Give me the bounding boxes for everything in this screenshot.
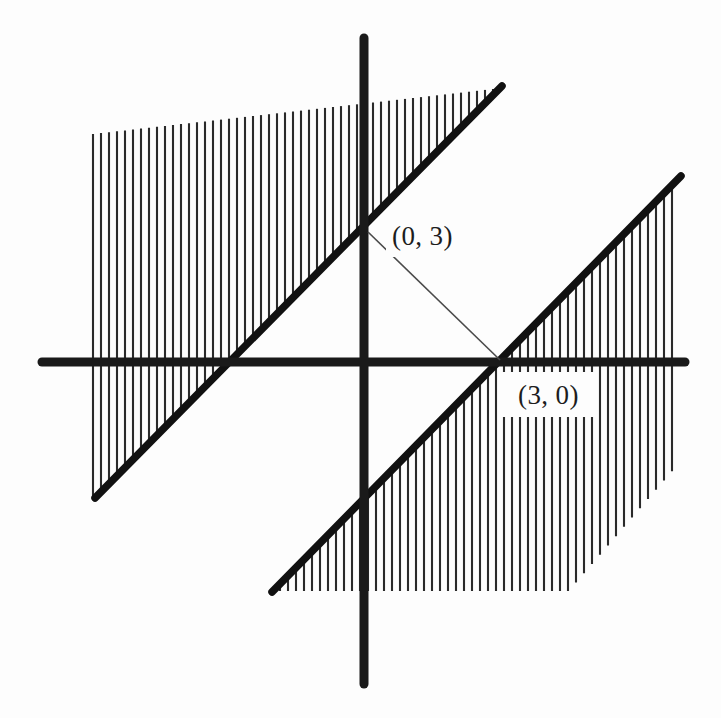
- point-label-b: (3, 0): [518, 380, 579, 410]
- point-label-a: (0, 3): [392, 221, 453, 251]
- figure-root: (0, 3) (3, 0): [0, 0, 721, 718]
- coordinate-plane-graph: (0, 3) (3, 0): [0, 0, 721, 718]
- point-label-b-group: (3, 0): [500, 372, 597, 417]
- point-label-a-group: (0, 3): [386, 219, 478, 257]
